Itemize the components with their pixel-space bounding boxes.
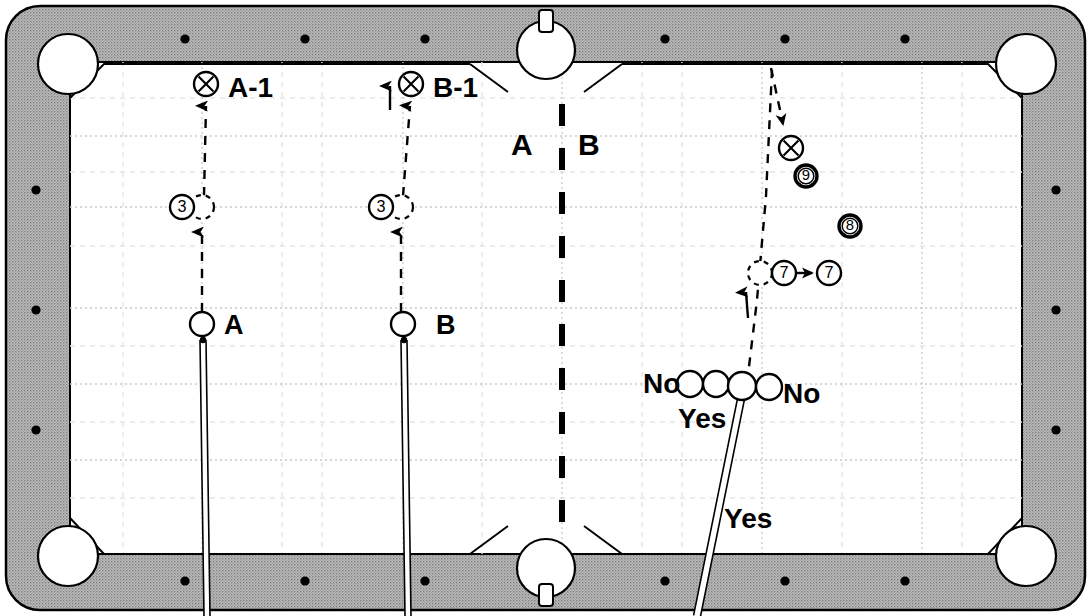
label-no-left: No bbox=[643, 368, 680, 399]
ghost-7 bbox=[748, 261, 772, 285]
pocket-bottom-right bbox=[996, 526, 1056, 586]
ball-label-seven-1: 7 bbox=[779, 263, 788, 281]
diamond-sight-top-0 bbox=[180, 34, 189, 43]
ball-seven-2: 7 bbox=[817, 261, 841, 285]
ball-three-a: 3 bbox=[170, 195, 194, 219]
diamond-sight-top-2 bbox=[420, 34, 429, 43]
diamond-sight-left-0 bbox=[31, 185, 40, 194]
diamond-sight-bottom-3 bbox=[660, 576, 669, 585]
diamond-sight-bottom-4 bbox=[780, 576, 789, 585]
ball-label-seven-2: 7 bbox=[824, 263, 833, 281]
diamond-sight-bottom-1 bbox=[300, 576, 309, 585]
diamond-sight-right-1 bbox=[1051, 305, 1060, 314]
pocket-top-left bbox=[38, 34, 98, 94]
ball-three-b: 3 bbox=[369, 195, 393, 219]
diamond-sight-left-1 bbox=[31, 305, 40, 314]
pocket-top-right bbox=[996, 34, 1056, 94]
ball-x-right bbox=[779, 136, 803, 160]
diamond-sight-right-2 bbox=[1051, 425, 1060, 434]
label-a-1: A-1 bbox=[228, 72, 273, 103]
ball-nine: 9 bbox=[795, 165, 817, 187]
diamond-sight-bottom-2 bbox=[420, 576, 429, 585]
row-4 bbox=[756, 374, 782, 400]
ball-label-three-a: 3 bbox=[177, 197, 186, 215]
cue-b bbox=[391, 312, 415, 336]
label-zone-b: B bbox=[578, 128, 600, 161]
ball-x-a1 bbox=[194, 72, 218, 96]
label-cue-b: B bbox=[436, 310, 456, 340]
diamond-sight-left-2 bbox=[31, 425, 40, 434]
row-2 bbox=[703, 371, 729, 397]
diamond-sight-top-1 bbox=[300, 34, 309, 43]
diamond-sight-top-4 bbox=[780, 34, 789, 43]
label-yes-lower: Yes bbox=[724, 503, 772, 534]
stick-a-tip bbox=[200, 337, 206, 343]
label-cue-a: A bbox=[224, 310, 244, 340]
ball-label-nine: 9 bbox=[802, 167, 810, 183]
pocket-notch-bottom bbox=[539, 584, 553, 606]
cue-a bbox=[190, 312, 214, 336]
ball-eight: 8 bbox=[839, 215, 861, 237]
label-zone-a: A bbox=[511, 128, 533, 161]
ball-label-three-b: 3 bbox=[376, 197, 385, 215]
diamond-sight-top-3 bbox=[660, 34, 669, 43]
ball-x-b1 bbox=[399, 72, 423, 96]
stick-b-tip bbox=[401, 337, 407, 343]
diamond-sight-right-0 bbox=[1051, 185, 1060, 194]
ball-label-eight: 8 bbox=[846, 217, 854, 233]
pocket-bottom-left bbox=[38, 526, 98, 586]
diagram-canvas: 339877 A-1 B-1 A B A B No No Yes Yes bbox=[0, 0, 1091, 616]
diamond-sight-bottom-0 bbox=[180, 576, 189, 585]
label-no-right: No bbox=[783, 378, 820, 409]
label-yes-upper: Yes bbox=[678, 403, 726, 434]
row-1 bbox=[677, 371, 703, 397]
diamond-sight-top-5 bbox=[900, 34, 909, 43]
ball-seven-1: 7 bbox=[772, 261, 796, 285]
pocket-notch-top bbox=[539, 10, 553, 32]
label-b-1: B-1 bbox=[433, 72, 478, 103]
diamond-sight-bottom-5 bbox=[900, 576, 909, 585]
pool-table-diagram: 339877 A-1 B-1 A B A B No No Yes Yes bbox=[0, 0, 1091, 616]
row-3 bbox=[728, 372, 756, 400]
